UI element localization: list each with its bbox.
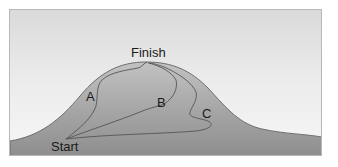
route-a-label: A xyxy=(86,90,95,103)
route-b-label: B xyxy=(157,96,166,109)
route-c-label: C xyxy=(202,107,211,120)
start-label: Start xyxy=(51,140,78,153)
finish-label: Finish xyxy=(131,46,166,59)
